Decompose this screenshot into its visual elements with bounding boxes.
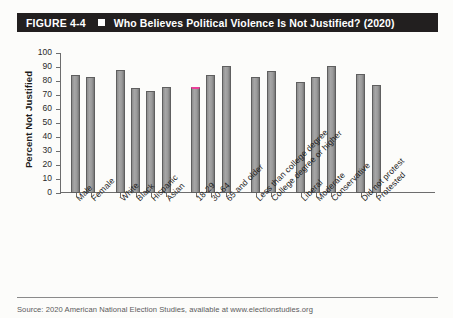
y-tick-label: 100 — [38, 47, 52, 57]
source-divider — [17, 297, 438, 298]
figure-header: FIGURE 4-4 Who Believes Political Violen… — [17, 13, 438, 32]
bar — [71, 75, 80, 193]
bar — [131, 88, 140, 193]
y-tick-label: 20 — [43, 159, 52, 169]
figure-title: Who Believes Political Violence Is Not J… — [114, 17, 395, 29]
y-tick-label: 90 — [43, 61, 52, 71]
y-tick-label: 70 — [43, 89, 52, 99]
y-tick-label: 80 — [43, 75, 52, 85]
bar — [116, 70, 125, 193]
y-tick-label: 60 — [43, 103, 52, 113]
y-tick-label: 0 — [47, 187, 52, 197]
y-axis-label: Percent Not Justified — [23, 45, 34, 195]
header-square-icon — [98, 19, 105, 26]
y-tick-0: 0 — [56, 193, 61, 194]
y-tick-label: 40 — [43, 131, 52, 141]
figure-number: FIGURE 4-4 — [26, 17, 86, 29]
bar — [146, 91, 155, 193]
figure-page: FIGURE 4-4 Who Believes Political Violen… — [0, 0, 453, 318]
bar — [191, 87, 200, 193]
y-tick-label: 50 — [43, 117, 52, 127]
x-axis-labels: MaleFemaleWhiteBlackHispanicAsian18-2930… — [60, 196, 453, 281]
bar — [206, 75, 215, 193]
bar — [86, 77, 95, 193]
y-tick-label: 10 — [43, 173, 52, 183]
source-note: Source: 2020 American National Election … — [17, 305, 447, 314]
bar — [222, 66, 231, 193]
chart-container: Percent Not Justified 010203040506070809… — [0, 36, 453, 281]
y-tick-label: 30 — [43, 145, 52, 155]
